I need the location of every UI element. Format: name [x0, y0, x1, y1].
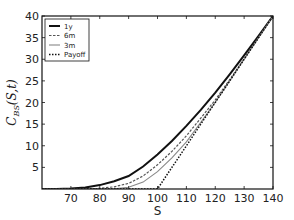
legend-label-payoff: Payoff	[64, 51, 86, 59]
x-tick-label: 140	[263, 192, 284, 205]
x-tick-label: 120	[205, 192, 226, 205]
x-tick-label: 130	[234, 192, 255, 205]
x-tick-label: 90	[122, 192, 136, 205]
x-tick-label: 110	[176, 192, 197, 205]
x-axis-label: S	[154, 204, 162, 218]
y-tick-label: 20	[25, 97, 39, 110]
x-tick-label: 80	[93, 192, 107, 205]
y-tick-label: 25	[25, 75, 39, 88]
y-tick-label: 5	[32, 161, 39, 174]
chart: 708090100110120130140510152025303540SCBS…	[0, 0, 294, 220]
y-tick-label: 40	[25, 10, 39, 23]
legend-label-3m: 3m	[64, 42, 75, 50]
y-tick-label: 35	[25, 32, 39, 45]
y-tick-label: 15	[25, 118, 39, 131]
legend-label-6m: 6m	[64, 32, 75, 40]
x-tick-label: 70	[64, 192, 78, 205]
y-axis-label: CBS(S,t)	[5, 79, 21, 126]
y-tick-label: 30	[25, 53, 39, 66]
legend: 1y6m3mPayoff	[45, 19, 89, 61]
y-tick-label: 10	[25, 140, 39, 153]
legend-label-1y: 1y	[64, 23, 73, 31]
